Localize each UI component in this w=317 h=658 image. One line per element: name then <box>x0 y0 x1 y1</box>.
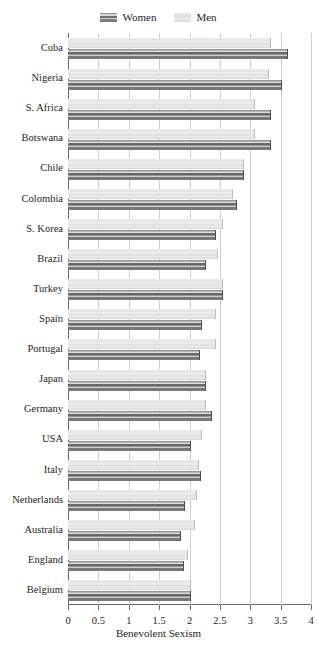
bar-women <box>68 230 216 240</box>
benevolent-sexism-bar-chart: Women Men 00.511.522.533.54 CubaNigeriaS… <box>0 0 317 658</box>
x-tick-label: 1 <box>126 615 131 626</box>
bar-women <box>68 290 223 300</box>
x-tick <box>250 605 251 610</box>
bar-men <box>68 460 199 470</box>
category-label: Germany <box>24 403 63 414</box>
x-tick <box>159 605 160 610</box>
chart-row: S. Africa <box>68 93 311 123</box>
category-label: Chile <box>40 162 63 173</box>
legend-label-men: Men <box>196 12 216 23</box>
bar-men <box>68 129 255 139</box>
chart-row: Australia <box>68 515 311 545</box>
bar-women <box>68 381 206 391</box>
chart-row: Japan <box>68 364 311 394</box>
chart-row: Spain <box>68 304 311 334</box>
bar-men <box>68 309 216 319</box>
legend-label-women: Women <box>122 12 156 23</box>
bar-women <box>68 501 185 511</box>
category-label: Colombia <box>22 193 63 204</box>
chart-row: Belgium <box>68 575 311 605</box>
category-label: Cuba <box>41 42 63 53</box>
bar-men <box>68 38 271 48</box>
x-tick <box>98 605 99 610</box>
bar-men <box>68 520 195 530</box>
bar-women <box>68 49 288 59</box>
plot-area: 00.511.522.533.54 CubaNigeriaS. AfricaBo… <box>68 33 311 605</box>
chart-row: Italy <box>68 454 311 484</box>
bar-men <box>68 550 188 560</box>
x-tick-label: 0 <box>65 615 70 626</box>
chart-row: England <box>68 545 311 575</box>
category-label: England <box>28 554 63 565</box>
x-tick <box>129 605 130 610</box>
bar-women <box>68 260 206 270</box>
chart-row: Portugal <box>68 334 311 364</box>
chart-row: Botswana <box>68 123 311 153</box>
bar-women <box>68 200 237 210</box>
bar-men <box>68 339 216 349</box>
category-label: Portugal <box>27 343 63 354</box>
chart-row: Chile <box>68 153 311 183</box>
chart-row: Germany <box>68 394 311 424</box>
chart-row: Brazil <box>68 244 311 274</box>
chart-legend: Women Men <box>0 8 317 26</box>
x-tick <box>68 605 69 610</box>
chart-row: Netherlands <box>68 485 311 515</box>
chart-row: Nigeria <box>68 63 311 93</box>
x-axis-title: Benevolent Sexism <box>0 627 317 639</box>
chart-row: S. Korea <box>68 214 311 244</box>
chart-row: Cuba <box>68 33 311 63</box>
bar-women <box>68 411 212 421</box>
x-tick-label: 3.5 <box>274 615 287 626</box>
bar-women <box>68 80 282 90</box>
x-tick-label: 3 <box>248 615 253 626</box>
legend-entry-women: Women <box>100 12 156 23</box>
category-label: S. Africa <box>26 102 63 113</box>
x-tick-label: 1.5 <box>153 615 166 626</box>
bar-men <box>68 219 223 229</box>
x-tick <box>311 605 312 610</box>
x-tick-label: 0.5 <box>92 615 105 626</box>
x-tick-label: 2.5 <box>213 615 226 626</box>
bar-women <box>68 441 191 451</box>
bar-men <box>68 430 202 440</box>
x-tick <box>281 605 282 610</box>
legend-entry-men: Men <box>174 12 216 23</box>
bar-men <box>68 279 223 289</box>
bar-women <box>68 531 181 541</box>
category-label: Belgium <box>27 584 63 595</box>
bar-women <box>68 471 201 481</box>
bar-men <box>68 69 269 79</box>
bar-women <box>68 170 244 180</box>
bar-men <box>68 490 197 500</box>
bar-men <box>68 400 206 410</box>
x-tick-label: 2 <box>187 615 192 626</box>
women-swatch-icon <box>100 13 117 22</box>
bar-women <box>68 140 271 150</box>
chart-row: Colombia <box>68 184 311 214</box>
category-label: Turkey <box>33 283 63 294</box>
bar-women <box>68 561 184 571</box>
category-label: Australia <box>25 524 64 535</box>
x-tick <box>220 605 221 610</box>
category-label: Japan <box>39 373 63 384</box>
chart-row: Turkey <box>68 274 311 304</box>
x-tick <box>190 605 191 610</box>
bar-women <box>68 591 191 601</box>
bar-men <box>68 159 244 169</box>
category-label: Italy <box>44 464 63 475</box>
bar-men <box>68 249 218 259</box>
men-swatch-icon <box>174 13 191 22</box>
bar-women <box>68 320 202 330</box>
category-label: Botswana <box>22 132 63 143</box>
gridline <box>311 33 312 605</box>
bar-men <box>68 99 255 109</box>
category-label: Brazil <box>37 253 63 264</box>
category-label: Nigeria <box>32 72 64 83</box>
category-label: Netherlands <box>12 494 63 505</box>
x-tick-label: 4 <box>308 615 313 626</box>
bar-men <box>68 580 191 590</box>
bar-men <box>68 189 233 199</box>
bar-women <box>68 110 271 120</box>
chart-row: USA <box>68 424 311 454</box>
